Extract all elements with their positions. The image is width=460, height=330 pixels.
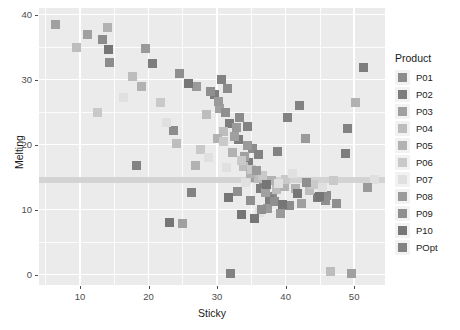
legend-label: POpt — [416, 242, 438, 253]
legend-key-p01 — [395, 70, 410, 85]
legend-key-p05 — [395, 138, 410, 153]
gridline-minor-y-5 — [39, 242, 385, 243]
data-point — [51, 20, 60, 29]
y-tick-label-10: 10 — [10, 204, 32, 215]
data-point — [128, 72, 137, 81]
legend-swatch-icon — [398, 124, 407, 133]
data-point — [347, 269, 356, 278]
data-point — [191, 161, 200, 170]
legend-label: P02 — [416, 89, 433, 100]
data-point — [297, 199, 306, 208]
x-tick-label-30: 30 — [202, 291, 232, 302]
data-point — [261, 188, 270, 197]
y-tick-mark-30 — [35, 80, 38, 81]
data-point — [326, 267, 335, 276]
legend-swatch-icon — [398, 90, 407, 99]
legend-label: P06 — [416, 157, 433, 168]
legend-label: P04 — [416, 123, 433, 134]
data-point — [295, 101, 304, 110]
gridline-minor-x-45 — [320, 8, 321, 285]
gridline-x-30 — [216, 8, 217, 285]
data-point — [148, 59, 157, 68]
legend-item-p05[interactable]: P05 — [395, 137, 438, 154]
data-point — [105, 58, 114, 67]
data-point — [237, 210, 246, 219]
legend-item-popt[interactable]: POpt — [395, 239, 438, 256]
legend: Product P01P02P03P04P05P06P07P08P09P10PO… — [395, 52, 438, 256]
data-point — [329, 176, 338, 185]
gridline-x-40 — [285, 8, 286, 285]
legend-swatch-icon — [398, 73, 407, 82]
data-point — [156, 98, 165, 107]
gridline-minor-y-25 — [39, 112, 385, 113]
data-point — [341, 149, 350, 158]
legend-items: P01P02P03P04P05P06P07P08P09P10POpt — [395, 69, 438, 256]
legend-label: P07 — [416, 174, 433, 185]
data-point — [119, 93, 128, 102]
data-point — [206, 87, 215, 96]
legend-swatch-icon — [398, 141, 407, 150]
data-point — [187, 188, 196, 197]
x-tick-label-20: 20 — [134, 291, 164, 302]
data-point — [232, 123, 241, 132]
data-point — [252, 166, 261, 175]
data-point — [230, 132, 239, 141]
legend-swatch-icon — [398, 192, 407, 201]
data-point — [318, 183, 327, 192]
data-point — [217, 75, 226, 84]
data-point — [241, 178, 250, 187]
y-tick-mark-40 — [35, 15, 38, 16]
legend-item-p09[interactable]: P09 — [395, 205, 438, 222]
legend-label: P01 — [416, 72, 433, 83]
data-point — [257, 205, 266, 214]
data-point — [332, 199, 341, 208]
x-tick-mark-50 — [354, 286, 355, 289]
legend-swatch-icon — [398, 226, 407, 235]
data-point — [103, 23, 112, 32]
legend-item-p08[interactable]: P08 — [395, 188, 438, 205]
data-point — [184, 79, 193, 88]
data-point — [278, 200, 287, 209]
legend-key-p04 — [395, 121, 410, 136]
gridline-y-20 — [39, 144, 385, 145]
data-point — [274, 179, 283, 188]
data-point — [243, 141, 252, 150]
data-point — [165, 218, 174, 227]
chart-root: 0102030401020304050 Melting Sticky Produ… — [0, 0, 460, 330]
data-point — [98, 35, 107, 44]
legend-item-p04[interactable]: P04 — [395, 120, 438, 137]
data-point — [301, 134, 310, 143]
legend-item-p02[interactable]: P02 — [395, 86, 438, 103]
legend-item-p07[interactable]: P07 — [395, 171, 438, 188]
data-point — [175, 69, 184, 78]
legend-key-popt — [395, 240, 410, 255]
y-tick-label-30: 30 — [10, 74, 32, 85]
x-tick-mark-10 — [80, 286, 81, 289]
legend-item-p06[interactable]: P06 — [395, 154, 438, 171]
legend-label: P10 — [416, 225, 433, 236]
legend-key-p10 — [395, 223, 410, 238]
x-tick-mark-30 — [217, 286, 218, 289]
data-point — [343, 124, 352, 133]
legend-item-p10[interactable]: P10 — [395, 222, 438, 239]
data-point — [228, 148, 237, 157]
data-point — [222, 163, 231, 172]
legend-item-p03[interactable]: P03 — [395, 103, 438, 120]
data-point — [363, 183, 372, 192]
legend-item-p01[interactable]: P01 — [395, 69, 438, 86]
y-tick-mark-10 — [35, 210, 38, 211]
legend-swatch-icon — [398, 175, 407, 184]
data-point — [223, 84, 232, 93]
data-point — [83, 30, 92, 39]
legend-label: P03 — [416, 106, 433, 117]
legend-swatch-icon — [398, 243, 407, 252]
y-tick-mark-20 — [35, 145, 38, 146]
data-point — [202, 110, 211, 119]
gridline-y-40 — [39, 14, 385, 15]
legend-label: P08 — [416, 191, 433, 202]
data-point — [233, 187, 242, 196]
gridline-minor-x-25 — [182, 8, 183, 285]
x-tick-label-50: 50 — [339, 291, 369, 302]
x-tick-label-10: 10 — [65, 291, 95, 302]
data-point — [132, 161, 141, 170]
